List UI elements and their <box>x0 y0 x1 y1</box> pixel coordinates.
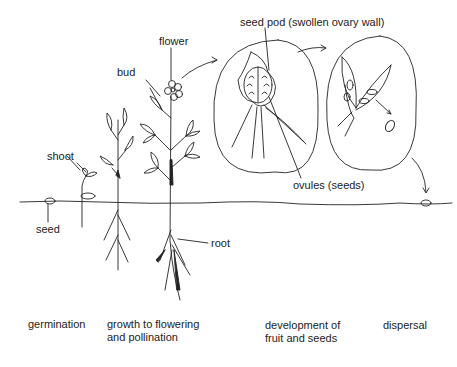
label-ovules: ovules (seeds) <box>293 179 365 192</box>
opening-pod-icon <box>327 36 417 170</box>
label-seed: seed <box>36 223 60 236</box>
flowering-plant-icon <box>140 88 200 300</box>
dispersed-seed-icon <box>421 200 431 206</box>
label-shoot: shoot <box>47 150 74 163</box>
plant-life-cycle-drawing <box>0 0 457 367</box>
label-seed-pod: seed pod (swollen ovary wall) <box>240 16 384 29</box>
stage-germination: germination <box>28 318 85 331</box>
label-bud: bud <box>117 66 135 79</box>
label-root: root <box>211 237 230 250</box>
arrow-to-dispersal-icon <box>298 48 326 53</box>
ground-line <box>20 201 452 205</box>
young-plant-icon <box>100 108 133 270</box>
flower-icon <box>165 81 183 101</box>
stage-dispersal: dispersal <box>383 319 427 332</box>
stage-growth: growth to flowering and pollination <box>107 318 199 344</box>
label-flower: flower <box>159 35 188 48</box>
arrow-to-ground-icon <box>412 158 426 192</box>
stage-development: development of fruit and seeds <box>265 319 340 345</box>
shoot-seedling-icon <box>77 163 97 227</box>
seed-pod-icon <box>214 40 318 173</box>
